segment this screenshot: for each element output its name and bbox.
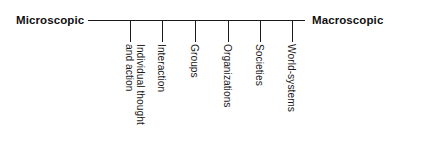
level-label-line: Interaction — [156, 44, 167, 92]
continuum-axis-line — [88, 20, 305, 21]
micro-macro-continuum-figure: Microscopic Macroscopic Individual thoug… — [0, 0, 423, 147]
level-label-line: Individual thought — [135, 44, 146, 125]
level-label: Individual thoughtand action — [124, 44, 146, 125]
axis-left-endpoint-label: Microscopic — [16, 14, 84, 26]
level-label: Organizations — [222, 44, 233, 108]
axis-tick — [162, 20, 163, 42]
axis-tick — [228, 20, 229, 42]
axis-tick — [195, 20, 196, 42]
axis-right-endpoint-label: Macroscopic — [312, 14, 383, 26]
level-label-line: Societies — [254, 44, 265, 86]
level-label-line: World-systems — [286, 44, 297, 112]
level-label-line: Groups — [189, 44, 200, 78]
axis-tick — [130, 20, 131, 42]
axis-tick — [292, 20, 293, 42]
level-label: Interaction — [156, 44, 167, 92]
axis-tick — [260, 20, 261, 42]
level-label-line: and action — [124, 44, 135, 125]
level-label: Societies — [254, 44, 265, 86]
level-label-line: Organizations — [222, 44, 233, 108]
level-label: World-systems — [286, 44, 297, 112]
level-label: Groups — [189, 44, 200, 78]
